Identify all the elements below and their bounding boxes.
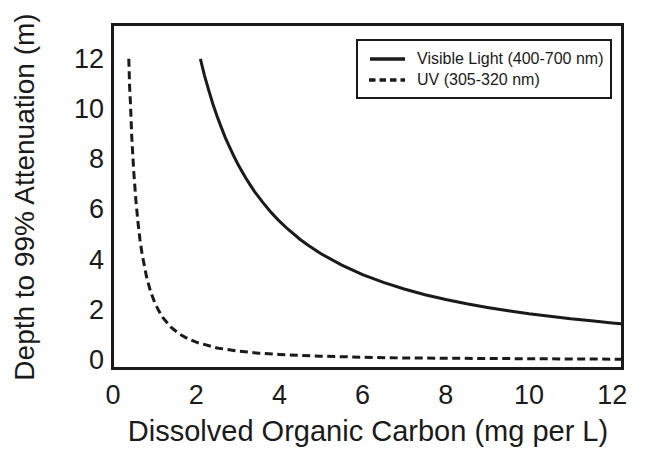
attenuation-depth-chart: Depth to 99% Attenuation (m) 024681012 0…: [0, 0, 658, 471]
plot-area: Visible Light (400-700 nm) UV (305-320 n…: [111, 23, 624, 370]
x-tick-6: 6: [328, 379, 398, 411]
x-tick-12: 12: [577, 379, 647, 411]
y-tick-0: 0: [44, 344, 104, 376]
legend-item-uv: UV (305-320 nm): [369, 71, 610, 89]
legend-label-uv: UV (305-320 nm): [417, 71, 540, 89]
legend-label-visible-light: Visible Light (400-700 nm): [417, 50, 603, 68]
legend: Visible Light (400-700 nm) UV (305-320 n…: [356, 39, 612, 99]
y-tick-4: 4: [44, 244, 104, 276]
y-tick-6: 6: [44, 193, 104, 225]
legend-item-visible-light: Visible Light (400-700 nm): [369, 50, 610, 68]
y-tick-10: 10: [44, 93, 104, 125]
x-tick-2: 2: [161, 379, 231, 411]
y-axis-label: Depth to 99% Attenuation (m): [9, 13, 41, 380]
y-tick-12: 12: [44, 43, 104, 75]
x-tick-8: 8: [411, 379, 481, 411]
dashed-line-swatch: [369, 76, 406, 84]
solid-line-swatch: [369, 55, 406, 63]
y-tick-2: 2: [44, 294, 104, 326]
y-tick-8: 8: [44, 143, 104, 175]
x-tick-0: 0: [78, 379, 148, 411]
uv-curve: [129, 59, 621, 359]
x-axis-label: Dissolved Organic Carbon (mg per L): [118, 414, 618, 448]
x-tick-4: 4: [244, 379, 314, 411]
x-tick-10: 10: [494, 379, 564, 411]
